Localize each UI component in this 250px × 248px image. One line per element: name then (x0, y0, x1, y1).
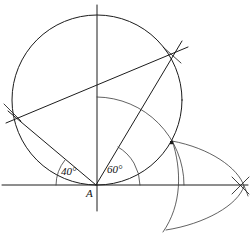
ray-40-degrees (8, 111, 96, 185)
vertex-label-a: A (86, 187, 93, 199)
geometry-figure: 40° 60° A (0, 0, 250, 248)
angle-label-40: 40° (61, 165, 76, 177)
angle-label-60: 60° (107, 163, 122, 175)
geometry-canvas (0, 0, 250, 248)
lens-arc-left (163, 140, 179, 232)
point-dot-icon (170, 141, 173, 144)
